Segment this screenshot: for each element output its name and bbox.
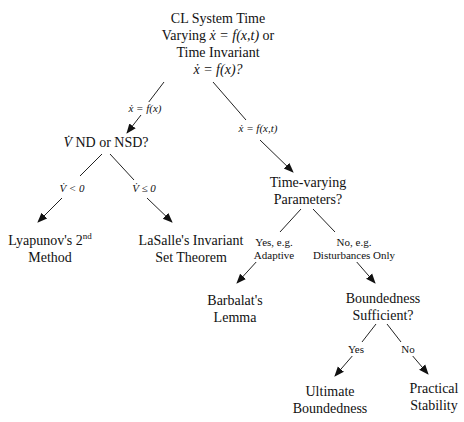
time-varying-params-node: Time-varying Parameters? <box>258 174 358 208</box>
lasalle-line1: LaSalle's Invariant <box>126 232 256 249</box>
root-line2-suffix: or <box>259 28 274 43</box>
root-line1: CL System Time <box>138 10 298 27</box>
root-line3: Time Invariant <box>138 44 298 61</box>
tv-yes-line2: Adaptive <box>246 249 302 262</box>
boundedness-node: Boundedness Sufficient? <box>338 290 428 324</box>
lyapunov-text: Lyapunov's 2 <box>8 233 82 248</box>
vdot-nd-node: V̇ ND or NSD? <box>46 134 166 151</box>
practical-line2: Stability <box>404 397 464 414</box>
barbalat-line1: Barbalat's <box>200 292 270 309</box>
edge-label-time-invariant: ẋ = f(x) <box>120 102 170 115</box>
barbalat-line2: Lemma <box>200 309 270 326</box>
practical-stability-node: Practical Stability <box>404 380 464 414</box>
edge-label-tv-yes: Yes, e.g. Adaptive <box>246 236 302 262</box>
lyapunov-sup: nd <box>83 231 92 241</box>
edge-label-vdot-lt-0: V̇ < 0 <box>52 182 92 195</box>
edge-label-vdot-le-0: V̇ ≤ 0 <box>124 182 164 195</box>
ultimate-line2: Boundedness <box>290 400 370 417</box>
root-line2-math: ẋ = f(x,t) <box>210 28 259 43</box>
edge-label-bound-yes: Yes <box>344 343 368 356</box>
lyapunov-node: Lyapunov's 2nd Method <box>0 232 100 266</box>
lyapunov-line1: Lyapunov's 2nd <box>0 232 100 249</box>
root-line2-prefix: Varying <box>162 28 210 43</box>
lasalle-node: LaSalle's Invariant Set Theorem <box>126 232 256 266</box>
root-line2: Varying ẋ = f(x,t) or <box>138 27 298 44</box>
root-node: CL System Time Varying ẋ = f(x,t) or Tim… <box>138 10 298 78</box>
bounded-line2: Sufficient? <box>338 307 428 324</box>
ultimate-line1: Ultimate <box>290 383 370 400</box>
tv-no-line2: Disturbances Only <box>306 249 402 262</box>
vdot-nd-text: ND or NSD? <box>72 135 149 150</box>
tvparams-line2: Parameters? <box>258 191 358 208</box>
tv-yes-line1: Yes, e.g. <box>246 236 302 249</box>
edge-label-time-varying: ẋ = f(x,t) <box>228 122 288 135</box>
edge-label-tv-no: No, e.g. Disturbances Only <box>306 236 402 262</box>
ultimate-boundedness-node: Ultimate Boundedness <box>290 383 370 417</box>
tvparams-line1: Time-varying <box>258 174 358 191</box>
practical-line1: Practical <box>404 380 464 397</box>
edge-label-bound-no: No <box>398 343 418 356</box>
tv-no-line1: No, e.g. <box>306 236 402 249</box>
vdot-symbol: V̇ <box>63 135 72 150</box>
barbalat-node: Barbalat's Lemma <box>200 292 270 326</box>
root-line4: ẋ = f(x)? <box>138 61 298 78</box>
bounded-line1: Boundedness <box>338 290 428 307</box>
lyapunov-line2: Method <box>0 249 100 266</box>
lasalle-line2: Set Theorem <box>126 249 256 266</box>
